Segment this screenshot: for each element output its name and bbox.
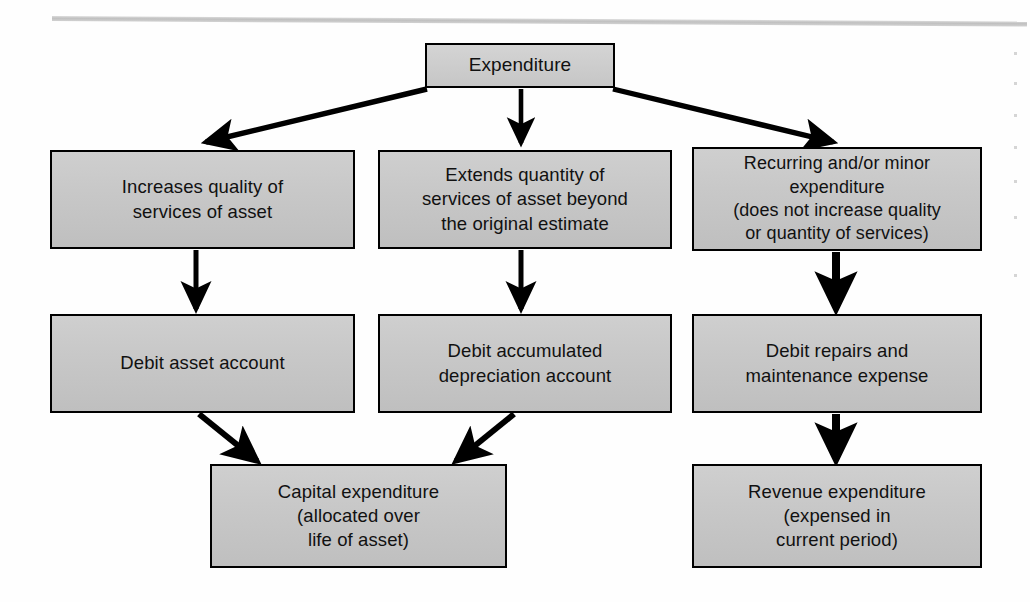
edge-expenditure-to-recurring-minor [613, 89, 833, 142]
node-expenditure[interactable]: Expenditure [425, 43, 615, 88]
diagram-canvas: Expenditure Increases quality of service… [0, 0, 1030, 602]
node-recurring-minor-label: Recurring and/or minor expenditure (does… [727, 152, 947, 246]
node-extends-quantity-label: Extends quantity of services of asset be… [416, 163, 634, 235]
node-capital-expenditure[interactable]: Capital expenditure (allocated over life… [210, 464, 507, 568]
node-debit-repairs-label: Debit repairs and maintenance expense [740, 339, 935, 387]
edge-expenditure-to-increase-quality [206, 89, 427, 142]
node-revenue-expenditure[interactable]: Revenue expenditure (expensed in current… [692, 464, 982, 568]
node-expenditure-label: Expenditure [463, 53, 578, 78]
node-debit-accum-label: Debit accumulated depreciation account [433, 339, 618, 387]
node-increase-quality-label: Increases quality of services of asset [116, 175, 289, 223]
edge-debit-accum-to-capital-exp [456, 414, 514, 461]
node-debit-accum[interactable]: Debit accumulated depreciation account [378, 314, 672, 413]
node-revenue-expenditure-label: Revenue expenditure (expensed in current… [742, 480, 932, 552]
edge-debit-asset-to-capital-exp [199, 414, 257, 461]
node-capital-expenditure-label: Capital expenditure (allocated over life… [272, 480, 445, 552]
node-increase-quality[interactable]: Increases quality of services of asset [50, 150, 355, 249]
node-debit-repairs[interactable]: Debit repairs and maintenance expense [692, 314, 982, 413]
node-debit-asset[interactable]: Debit asset account [50, 314, 355, 413]
node-extends-quantity[interactable]: Extends quantity of services of asset be… [378, 150, 672, 249]
node-debit-asset-label: Debit asset account [114, 351, 290, 375]
node-recurring-minor[interactable]: Recurring and/or minor expenditure (does… [692, 147, 982, 251]
